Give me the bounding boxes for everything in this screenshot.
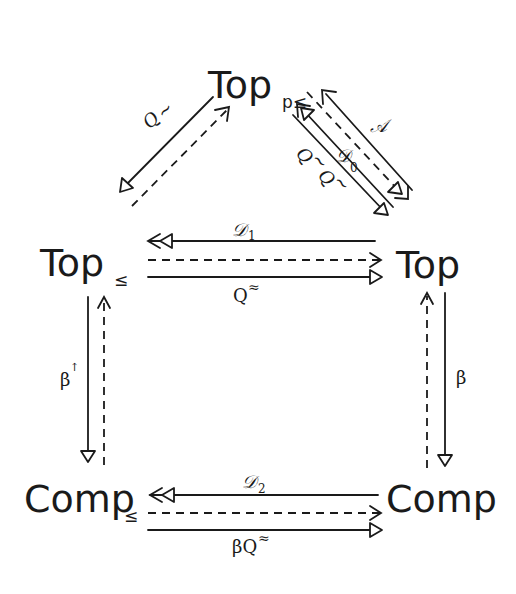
label-D2: 𝒟 2 [242, 471, 266, 496]
node-top: Top [395, 243, 460, 287]
svg-text:β: β [456, 367, 466, 388]
svg-text:𝒜: 𝒜 [370, 115, 392, 136]
triangle-arrowhead-icon [388, 182, 402, 194]
svg-text:↑: ↑ [70, 361, 79, 374]
svg-text:βQ: βQ [232, 536, 257, 557]
double-triangle-arrowhead-icon [301, 108, 314, 120]
triangle-arrowhead-icon [438, 455, 452, 466]
label-beta-up: β ↑ [60, 361, 79, 390]
svg-text:≈: ≈ [258, 530, 270, 546]
node-comp-base: Comp [386, 477, 497, 521]
triangle-arrowhead-icon [374, 203, 388, 215]
arrow-D1 [148, 234, 375, 248]
node-top-base: Top [395, 243, 460, 287]
label-Q-approx: Q ≈ [233, 279, 260, 306]
arrow-beta-up [81, 297, 95, 462]
node-top-leq: Top ≤ [39, 241, 128, 290]
node-comp-leq: Comp ≤ [24, 477, 138, 526]
svg-text:≈: ≈ [248, 279, 260, 295]
label-beta-Q-approx: βQ ≈ [232, 530, 270, 557]
label-D0: 𝒟 0 [336, 145, 358, 175]
label-beta: β [456, 367, 466, 388]
svg-text:2: 2 [258, 482, 266, 496]
arrow-beta [438, 293, 452, 466]
category-diagram: Top p≤ Top ≤ Top Comp ≤ Comp Q ~ [0, 0, 516, 594]
arrow-inclusion-mid [148, 253, 381, 267]
node-comp: Comp [386, 477, 497, 521]
double-triangle-arrowhead-icon [162, 488, 174, 502]
node-top-pleq: Top p≤ [207, 63, 307, 112]
node-comp-leq-subscript: ≤ [124, 506, 138, 526]
node-top-leq-subscript: ≤ [114, 270, 128, 290]
triangle-arrowhead-icon [370, 270, 382, 284]
svg-text:0: 0 [350, 161, 358, 175]
node-comp-leq-base: Comp [24, 477, 135, 521]
label-D1: 𝒟 1 [232, 219, 256, 243]
arrow-inclusion-bottom [148, 506, 381, 520]
arrow-inclusion-left-vert [98, 297, 110, 465]
double-triangle-arrowhead-icon [160, 234, 172, 248]
arrow-inclusion-right-vert [421, 293, 433, 468]
arrow-Q-approx [148, 270, 382, 284]
svg-text:Q: Q [233, 285, 248, 306]
triangle-arrowhead-icon [370, 523, 382, 537]
svg-text:β: β [60, 369, 70, 390]
svg-text:1: 1 [248, 229, 256, 243]
label-q-tilde-left: Q ~ [138, 97, 178, 133]
triangle-arrowhead-icon [81, 451, 95, 462]
node-top-pleq-base: Top [207, 63, 272, 107]
label-A: 𝒜 [370, 115, 392, 136]
node-top-leq-base: Top [39, 241, 104, 285]
